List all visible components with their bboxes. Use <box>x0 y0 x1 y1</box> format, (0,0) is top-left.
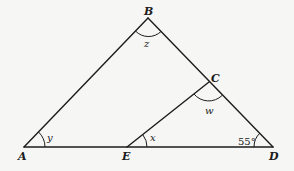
angle-arc-y <box>39 132 46 147</box>
angle-label-w: w <box>205 105 214 116</box>
angle-arc-x <box>143 135 147 147</box>
vertex-label-b: B <box>143 5 153 18</box>
segment-ec <box>127 82 209 147</box>
angle-label-x: x <box>150 132 156 143</box>
angle-label-z: z <box>143 38 150 49</box>
vertex-label-c: C <box>211 72 220 85</box>
angle-arc-z <box>136 31 162 37</box>
angle-label-y: y <box>46 132 53 143</box>
triangle-diagram: B C A E D z w y x 55° <box>0 0 294 171</box>
vertex-label-d: D <box>268 150 279 163</box>
vertex-label-e: E <box>121 150 131 163</box>
segment-ab <box>24 18 148 147</box>
angle-label-d: 55° <box>238 136 256 147</box>
diagram-canvas: B C A E D z w y x 55° <box>0 0 294 171</box>
angle-arc-w <box>194 94 222 101</box>
vertex-label-a: A <box>17 150 27 163</box>
